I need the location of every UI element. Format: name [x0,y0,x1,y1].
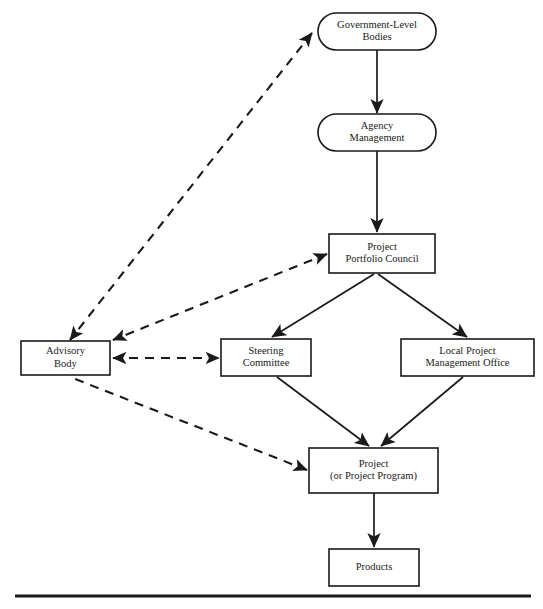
node-local_project_management_office[interactable]: Local ProjectManagement Office [401,339,534,376]
node-label-agency_management: Management [350,132,405,143]
edge-project-advisory [70,377,307,470]
node-label-project_portfolio_council: Portfolio Council [345,253,418,264]
node-label-project: (or Project Program) [330,470,417,482]
node-label-steering_committee: Steering [249,345,285,356]
node-agency_management[interactable]: AgencyManagement [318,114,436,151]
node-project[interactable]: Project(or Project Program) [309,448,438,493]
node-label-project_portfolio_council: Project [367,241,397,252]
edge-ppc-to-lpmo [378,274,467,337]
node-government_level_bodies[interactable]: Government-LevelBodies [318,13,436,50]
node-steering_committee[interactable]: SteeringCommittee [221,339,311,376]
node-label-government_level_bodies: Government-Level [337,19,417,30]
node-label-advisory_body: Body [54,358,78,369]
node-label-local_project_management_office: Local Project [439,345,495,356]
node-label-agency_management: Agency [361,120,394,131]
governance-diagram: Government-LevelBodiesAgencyManagementPr… [0,0,543,609]
node-project_portfolio_council[interactable]: ProjectPortfolio Council [329,234,435,273]
edge-steering-to-project [277,377,369,446]
node-label-project: Project [359,458,389,469]
node-label-local_project_management_office: Management Office [425,357,509,368]
diagram-canvas: Government-LevelBodiesAgencyManagementPr… [0,0,543,609]
edge-ppc-advisory [113,254,327,340]
edge-gov-advisory [70,33,312,340]
node-label-products: Products [356,561,393,572]
node-products[interactable]: Products [329,549,419,586]
edge-ppc-to-steering [272,274,374,337]
node-label-steering_committee: Committee [243,357,290,368]
node-advisory_body[interactable]: AdvisoryBody [21,341,110,375]
node-label-advisory_body: Advisory [46,345,86,356]
node-label-government_level_bodies: Bodies [362,31,391,42]
nodes-layer: Government-LevelBodiesAgencyManagementPr… [21,13,534,586]
edge-lpmo-to-project [381,377,463,446]
